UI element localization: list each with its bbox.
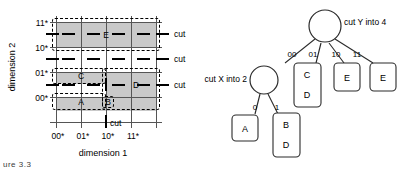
cut-segment-low-4	[112, 84, 125, 86]
grid-diagram: dimension 2 dimension 1 11* 10* 01* 00* …	[0, 0, 203, 172]
cut-segment-top-6	[156, 33, 169, 35]
y-axis-label: dimension 2	[7, 37, 17, 97]
edge-label-00: 00	[288, 50, 297, 59]
x-tick-11: 11*	[121, 131, 145, 141]
x-tick-00: 00*	[46, 131, 70, 141]
edge-label-01: 01	[309, 50, 318, 59]
cut-segment-mid-2	[62, 58, 75, 60]
cut-segment-top-3	[87, 33, 100, 35]
cut-label-vertical: cut	[110, 118, 121, 128]
x-tick-01: 01*	[71, 131, 95, 141]
edge-label-11: 11	[353, 50, 362, 59]
inner-annotation: cut X into 2	[204, 74, 247, 84]
edge-label-10: 10	[332, 50, 341, 59]
region-label-b: B	[96, 97, 120, 107]
y-tick-11: 11*	[24, 18, 48, 28]
leaf-bd-line-2: D	[283, 140, 290, 150]
cut-segment-low-3	[87, 84, 100, 86]
cut-segment-top-5	[137, 33, 150, 35]
cut-segment-vertical-2	[105, 115, 107, 128]
x-tick-10: 10*	[96, 131, 120, 141]
cut-segment-low-1	[46, 84, 59, 86]
caption-fragment: ure 3.3	[3, 160, 31, 169]
y-tick-01: 01*	[24, 68, 48, 78]
cut-segment-top-1	[46, 33, 59, 35]
edge-label-1: 1	[275, 103, 280, 112]
region-label-a: A	[69, 97, 93, 107]
figure-root: dimension 2 dimension 1 11* 10* 01* 00* …	[0, 0, 406, 172]
grid-plot-area: E C A D B	[56, 22, 156, 122]
leaf-a-line-1: A	[242, 124, 248, 134]
edge-label-0: 0	[253, 103, 258, 112]
leaf-e1-line-1: E	[344, 73, 350, 83]
leaf-cd-line-1: C	[304, 70, 311, 80]
cut-segment-mid-1	[46, 58, 59, 60]
root-annotation: cut Y into 4	[344, 17, 386, 27]
cut-segment-low-6	[156, 84, 169, 86]
cut-segment-vertical-1	[105, 78, 107, 91]
tree-node-inner[interactable]	[250, 66, 278, 94]
region-label-c: C	[69, 71, 93, 81]
tree-diagram: cut Y into 4 cut X into 2 00 01 10 11 0 …	[203, 0, 406, 172]
cut-label-mid: cut	[174, 54, 185, 64]
x-axis-label: dimension 1	[48, 148, 158, 158]
leaf-bd-line-1: B	[283, 120, 289, 130]
tree-node-root[interactable]	[309, 10, 341, 42]
cut-segment-low-2	[62, 84, 75, 86]
cut-segment-top-4	[112, 33, 125, 35]
y-tick-00: 00*	[24, 93, 48, 103]
cut-segment-top-2	[62, 33, 75, 35]
cut-label-bottom: cut	[174, 80, 185, 90]
leaf-cd-line-2: D	[304, 90, 311, 100]
cut-segment-mid-6	[156, 58, 169, 60]
cut-label-top: cut	[174, 29, 185, 39]
cut-segment-mid-5	[137, 58, 150, 60]
cut-segment-mid-3	[87, 58, 100, 60]
tree-svg: cut Y into 4 cut X into 2 00 01 10 11 0 …	[203, 0, 406, 172]
cut-segment-mid-4	[112, 58, 125, 60]
y-tick-10: 10*	[24, 43, 48, 53]
cut-segment-low-5	[137, 84, 150, 86]
leaf-e2-line-1: E	[380, 73, 386, 83]
